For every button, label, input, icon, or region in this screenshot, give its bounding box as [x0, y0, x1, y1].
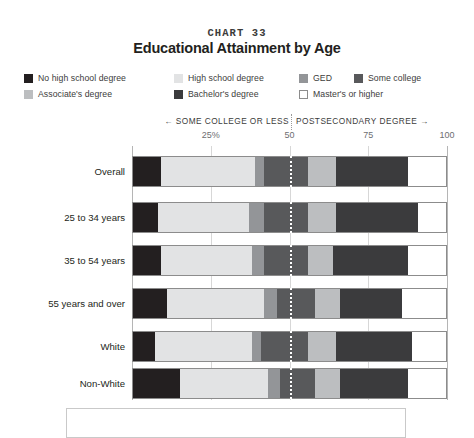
footnote-box: [66, 408, 406, 438]
legend-item-0: No high school degree: [24, 74, 126, 83]
bar-segment: [408, 157, 446, 186]
bar-segment: [408, 369, 446, 398]
legend-swatch-icon: [299, 90, 308, 99]
legend-swatch-icon: [24, 90, 33, 99]
tick-label-75: 75: [363, 130, 373, 140]
legend-swatch-icon: [174, 90, 183, 99]
axis-divider: [291, 114, 292, 130]
legend-item-label: Associate's degree: [38, 90, 112, 99]
bar-segment: [133, 332, 155, 361]
bar-row: 25 to 34 years: [132, 202, 447, 233]
bar-segment: [277, 289, 315, 318]
bar-segment: [255, 157, 264, 186]
axis-tick-labels: 25%5075100: [0, 130, 474, 144]
legend-swatch-icon: [174, 74, 183, 83]
plot-area: Overall25 to 34 years35 to 54 years55 ye…: [132, 146, 447, 400]
bar-segment: [252, 332, 261, 361]
category-label: White: [100, 331, 125, 362]
bar-segment: [336, 157, 408, 186]
bar-segment: [340, 369, 409, 398]
axis-direction-left: ← SOME COLLEGE OR LESS: [132, 116, 289, 128]
bar-segment: [308, 332, 336, 361]
bar-segment: [133, 289, 167, 318]
category-label: Overall: [95, 156, 125, 187]
legend-item-label: No high school degree: [38, 74, 126, 83]
bar-segment: [161, 246, 252, 275]
bar-segment: [133, 157, 161, 186]
legend-item-label: Bachelor's degree: [188, 90, 259, 99]
category-label: 25 to 34 years: [64, 202, 125, 233]
bar-segment: [180, 369, 268, 398]
bar-segment: [340, 289, 403, 318]
bar-segment: [264, 289, 277, 318]
tick-label-50: 50: [284, 130, 294, 140]
category-label: 55 years and over: [48, 288, 125, 319]
bar-segment: [158, 203, 249, 232]
legend-item-3: Some college: [354, 74, 421, 83]
legend-swatch-icon: [354, 74, 363, 83]
bar-segment: [264, 246, 308, 275]
legend-item-5: Bachelor's degree: [174, 90, 259, 99]
legend-item-label: GED: [313, 74, 332, 83]
bar-segment: [280, 369, 314, 398]
axis-direction-right: POSTSECONDARY DEGREE →: [296, 116, 456, 128]
bar-segment: [402, 289, 446, 318]
bar-segment: [264, 203, 308, 232]
page-title: Educational Attainment by Age: [0, 40, 474, 56]
legend-item-4: Associate's degree: [24, 90, 112, 99]
legend-swatch-icon: [299, 74, 308, 83]
bar-row: Overall: [132, 156, 447, 187]
bar-segment: [155, 332, 252, 361]
bar-segment: [261, 332, 308, 361]
legend-swatch-icon: [24, 74, 33, 83]
bar-segment: [315, 289, 340, 318]
legend-item-label: Master's or higher: [313, 90, 383, 99]
bar-segment: [336, 203, 417, 232]
category-label: 35 to 54 years: [64, 245, 125, 276]
legend-item-6: Master's or higher: [299, 90, 383, 99]
bar-segment: [308, 157, 336, 186]
bar-segment: [408, 246, 446, 275]
chart-legend: No high school degreeHigh school degreeG…: [24, 74, 452, 104]
midpoint-divider: [290, 202, 292, 233]
midpoint-divider: [290, 331, 292, 362]
midpoint-divider: [290, 156, 292, 187]
legend-item-1: High school degree: [174, 74, 264, 83]
bar-segment: [252, 246, 265, 275]
bar-segment: [264, 157, 308, 186]
bar-row: 55 years and over: [132, 288, 447, 319]
bar-row: Non-White: [132, 368, 447, 399]
midpoint-divider: [290, 245, 292, 276]
bar-segment: [161, 157, 255, 186]
legend-item-label: High school degree: [188, 74, 264, 83]
bar-segment: [308, 203, 336, 232]
bar-segment: [412, 332, 446, 361]
bar-segment: [167, 289, 264, 318]
tick-label-25: 25%: [202, 130, 220, 140]
legend-item-label: Some college: [368, 74, 421, 83]
bar-segment: [133, 203, 158, 232]
bar-segment: [315, 369, 340, 398]
legend-item-2: GED: [299, 74, 332, 83]
bar-segment: [268, 369, 281, 398]
bar-segment: [333, 246, 408, 275]
tick-label-100: 100: [439, 130, 454, 140]
bar-segment: [418, 203, 446, 232]
bar-segment: [133, 369, 180, 398]
midpoint-divider: [290, 368, 292, 399]
midpoint-divider: [290, 288, 292, 319]
chart-number: CHART 33: [0, 27, 474, 39]
bar-segment: [336, 332, 411, 361]
bar-segment: [249, 203, 265, 232]
bar-segment: [133, 246, 161, 275]
bar-row: 35 to 54 years: [132, 245, 447, 276]
bar-row: White: [132, 331, 447, 362]
category-label: Non-White: [80, 368, 125, 399]
bar-segment: [308, 246, 333, 275]
gridline-100: [447, 146, 448, 400]
